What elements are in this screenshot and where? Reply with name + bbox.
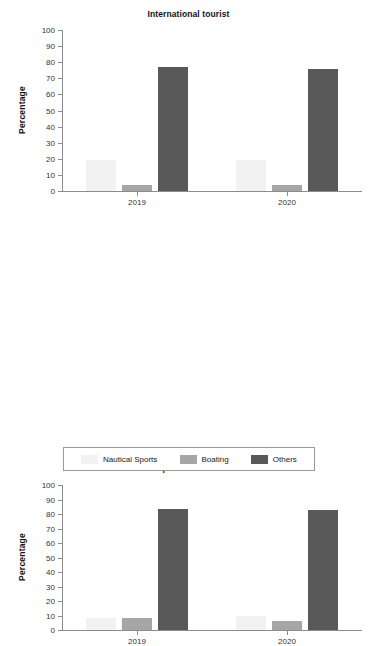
bar-boating-2019 bbox=[122, 618, 152, 630]
x-axis-tick-label-2019: 2019 bbox=[128, 198, 146, 207]
legend-label: Boating bbox=[202, 455, 229, 464]
legend-swatch-icon bbox=[251, 455, 268, 464]
x-axis-line bbox=[62, 630, 362, 631]
y-axis-tick bbox=[58, 616, 62, 617]
legend-label: Others bbox=[273, 455, 297, 464]
y-axis-tick bbox=[58, 601, 62, 602]
y-axis-tick-label: 20 bbox=[46, 597, 55, 606]
y-axis-tick-label: 100 bbox=[42, 26, 55, 35]
chart-panel-international: International tourist Percentage 0102030… bbox=[0, 0, 377, 222]
legend-swatch-icon bbox=[81, 455, 98, 464]
y-axis-tick bbox=[58, 529, 62, 530]
bar-boating-2020 bbox=[272, 621, 302, 630]
legend-swatch-icon bbox=[180, 455, 197, 464]
chart-panel-spanish: Spanish tourist Percentage 0102030405060… bbox=[0, 222, 377, 434]
y-axis-label-spanish: Percentage bbox=[17, 527, 27, 587]
y-axis-tick bbox=[58, 94, 62, 95]
y-axis-tick bbox=[58, 191, 62, 192]
y-axis-tick-label: 0 bbox=[51, 187, 55, 196]
y-axis-tick-label: 20 bbox=[46, 154, 55, 163]
y-axis-tick bbox=[58, 587, 62, 588]
x-axis-tick-label-2020: 2020 bbox=[278, 637, 296, 646]
y-axis-tick bbox=[58, 543, 62, 544]
y-axis-tick bbox=[58, 159, 62, 160]
y-axis-tick bbox=[58, 127, 62, 128]
y-axis-tick bbox=[58, 62, 62, 63]
bar-boating-2020 bbox=[272, 185, 302, 191]
y-axis-tick-label: 60 bbox=[46, 539, 55, 548]
y-axis-tick-label: 80 bbox=[46, 58, 55, 67]
bar-others-2020 bbox=[308, 69, 338, 191]
legend-item-boating[interactable]: Boating bbox=[180, 455, 229, 464]
y-axis-tick bbox=[58, 485, 62, 486]
chart-legend: Nautical SportsBoatingOthers bbox=[63, 447, 315, 471]
bar-others-2019 bbox=[158, 67, 188, 191]
bar-nautical-sports-2020 bbox=[236, 160, 266, 191]
bar-nautical-sports-2020 bbox=[236, 616, 266, 630]
legend-label: Nautical Sports bbox=[103, 455, 157, 464]
x-axis-tick-label-2020: 2020 bbox=[278, 198, 296, 207]
x-axis-tick bbox=[137, 192, 138, 196]
y-axis-tick-label: 50 bbox=[46, 553, 55, 562]
bar-nautical-sports-2019 bbox=[86, 618, 116, 630]
x-axis-tick bbox=[287, 631, 288, 635]
x-axis-tick-label-2019: 2019 bbox=[128, 637, 146, 646]
plot-area-international: 010203040506070809010020192020 bbox=[62, 30, 362, 192]
y-axis-tick-label: 50 bbox=[46, 106, 55, 115]
bar-others-2020 bbox=[308, 510, 338, 630]
y-axis-tick-label: 40 bbox=[46, 122, 55, 131]
y-axis-tick bbox=[58, 558, 62, 559]
y-axis-tick bbox=[58, 630, 62, 631]
y-axis-tick-label: 10 bbox=[46, 170, 55, 179]
bar-nautical-sports-2019 bbox=[86, 160, 116, 191]
legend-item-others[interactable]: Others bbox=[251, 455, 297, 464]
bar-others-2019 bbox=[158, 509, 188, 630]
y-axis-tick bbox=[58, 143, 62, 144]
y-axis-tick-label: 70 bbox=[46, 524, 55, 533]
chart-title-international: International tourist bbox=[0, 9, 377, 19]
y-axis-line bbox=[62, 30, 63, 192]
y-axis-tick-label: 100 bbox=[42, 481, 55, 490]
y-axis-tick bbox=[58, 78, 62, 79]
x-axis-line bbox=[62, 191, 362, 192]
y-axis-tick bbox=[58, 500, 62, 501]
bar-boating-2019 bbox=[122, 185, 152, 191]
x-axis-tick bbox=[137, 631, 138, 635]
y-axis-tick bbox=[58, 572, 62, 573]
plot-area-spanish: 010203040506070809010020192020 bbox=[62, 485, 362, 631]
y-axis-tick-label: 10 bbox=[46, 611, 55, 620]
y-axis-label-international: Percentage bbox=[17, 80, 27, 140]
y-axis-tick-label: 60 bbox=[46, 90, 55, 99]
y-axis-tick-label: 30 bbox=[46, 138, 55, 147]
legend-item-nautical-sports[interactable]: Nautical Sports bbox=[81, 455, 157, 464]
y-axis-line bbox=[62, 485, 63, 631]
y-axis-tick bbox=[58, 514, 62, 515]
y-axis-tick-label: 70 bbox=[46, 74, 55, 83]
y-axis-tick-label: 30 bbox=[46, 582, 55, 591]
y-axis-tick bbox=[58, 46, 62, 47]
y-axis-tick-label: 90 bbox=[46, 42, 55, 51]
y-axis-tick bbox=[58, 30, 62, 31]
y-axis-tick bbox=[58, 111, 62, 112]
y-axis-tick bbox=[58, 175, 62, 176]
x-axis-tick bbox=[287, 192, 288, 196]
y-axis-tick-label: 40 bbox=[46, 568, 55, 577]
y-axis-tick-label: 0 bbox=[51, 626, 55, 635]
y-axis-tick-label: 80 bbox=[46, 510, 55, 519]
y-axis-tick-label: 90 bbox=[46, 495, 55, 504]
